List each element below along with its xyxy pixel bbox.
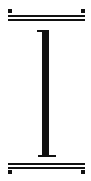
- glyph-bottom-serif: [38, 155, 56, 157]
- bottom-rule-upper: [8, 163, 85, 165]
- top-left-marker: [8, 9, 12, 13]
- glyph-stem: [42, 30, 49, 157]
- top-rule-lower: [8, 19, 85, 21]
- top-rule-upper: [8, 15, 85, 17]
- top-right-marker: [81, 9, 85, 13]
- text-height-icon: [0, 0, 91, 181]
- bottom-rule-lower: [8, 167, 85, 169]
- bottom-left-marker: [8, 170, 12, 174]
- bottom-right-marker: [81, 170, 85, 174]
